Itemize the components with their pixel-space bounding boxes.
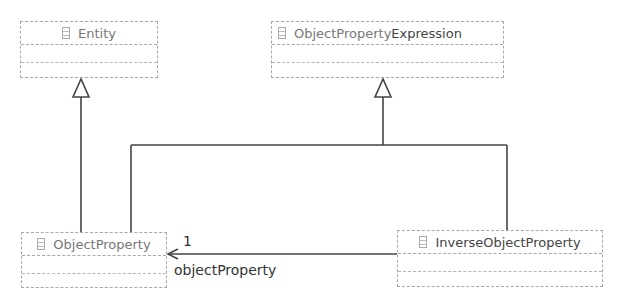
attributes-section xyxy=(272,45,503,63)
class-icon xyxy=(37,238,45,250)
class-header: InverseObjectProperty xyxy=(398,231,602,254)
class-name: ObjectProperty xyxy=(53,237,150,252)
class-entity[interactable]: Entity xyxy=(20,21,158,78)
class-name: InverseObjectProperty xyxy=(435,235,580,250)
operations-section xyxy=(22,274,166,291)
class-name-part1: ObjectProperty xyxy=(294,26,391,41)
attributes-section xyxy=(22,256,166,274)
multiplicity-label: 1 xyxy=(183,233,192,249)
class-object-property-expression[interactable]: ObjectPropertyExpression xyxy=(271,21,504,78)
attributes-section xyxy=(398,254,602,272)
class-header: ObjectPropertyExpression xyxy=(272,22,503,45)
class-icon xyxy=(278,27,286,39)
class-icon xyxy=(419,236,427,248)
class-inverse-object-property[interactable]: InverseObjectProperty xyxy=(397,230,603,287)
class-name-part2: Expression xyxy=(391,26,462,41)
operations-section xyxy=(398,272,602,289)
class-name: Entity xyxy=(78,26,116,41)
role-label: objectProperty xyxy=(174,262,276,278)
attributes-section xyxy=(21,45,157,63)
operations-section xyxy=(272,63,503,80)
class-object-property[interactable]: ObjectProperty xyxy=(21,232,167,288)
operations-section xyxy=(21,63,157,80)
class-icon xyxy=(62,27,70,39)
class-header: Entity xyxy=(21,22,157,45)
class-header: ObjectProperty xyxy=(22,233,166,256)
